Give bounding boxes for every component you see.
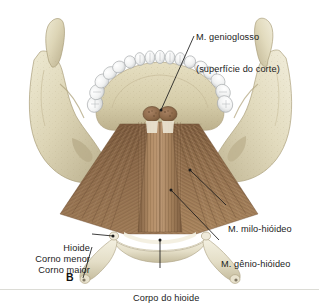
label-genioglosso-line1: M. genioglosso: [196, 32, 280, 43]
label-genioglosso-line2: (superfície do corte): [196, 64, 280, 75]
label-genio-hioideo-text: M. gênio-hióideo: [221, 259, 291, 270]
label-milo-hioideo-text: M. milo-hióideo: [228, 224, 292, 235]
figure-letter: B: [66, 271, 74, 283]
label-corpo-do-hioide-text: Corpo do hioide: [133, 293, 199, 304]
label-corno-maior-text: Corno maior: [0, 265, 90, 276]
label-genioglosso: M. genioglosso (superfície do corte): [196, 11, 280, 96]
label-genio-hioideo: M. gênio-hióideo: [221, 238, 291, 291]
geniohyoid-muscle: [138, 122, 182, 232]
hyoid-lesser-horn-right: [201, 232, 210, 240]
figure-divider: [0, 289, 319, 290]
